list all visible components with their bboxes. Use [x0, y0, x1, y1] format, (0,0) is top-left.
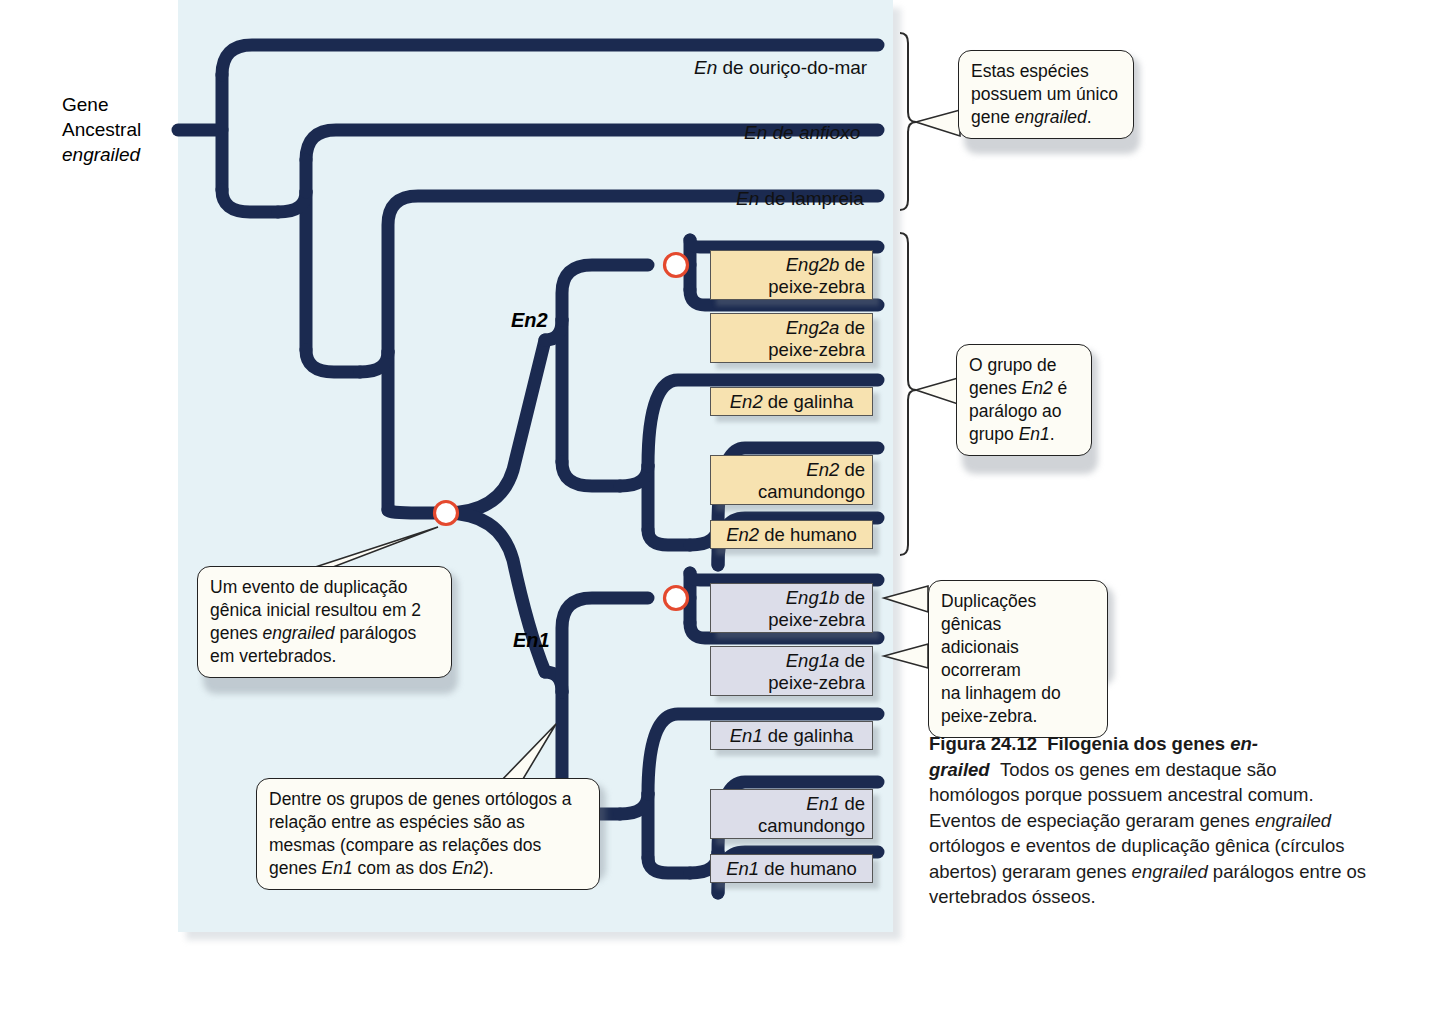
leader-ortholog-groups	[498, 724, 556, 784]
bracket-single-gene-species	[900, 33, 916, 210]
callout-paralog-group: O grupo de genes En2 é parálogo ao grupo…	[956, 344, 1092, 456]
callout-line: gênica inicial resultou em 2	[210, 599, 439, 622]
gene-box-line2: peixe-zebra	[718, 672, 865, 694]
callout-line: genes engrailed parálogos	[210, 622, 439, 645]
callout-line: na linhagem do	[941, 682, 1095, 705]
gene-box-line2: camundongo	[718, 815, 865, 837]
gene-box-en2-human: En2 de humano	[710, 520, 873, 549]
tip-label-lamprey: En de lampreia	[736, 188, 864, 210]
callout-extra-duplications: Duplicações gênicas adicionais ocorreram…	[928, 580, 1108, 738]
gene-box-line1: Eng2b de	[718, 254, 865, 276]
callout-line: possuem um único	[971, 83, 1121, 106]
tip-label-sea-urchin: En de ouriço-do-mar	[694, 57, 867, 79]
branch-to-nodeA	[222, 190, 278, 212]
branch-en2-fish-stem	[562, 265, 648, 320]
callout-line: parálogo ao	[969, 400, 1079, 423]
caption-title: Filogenia dos genes	[1047, 733, 1230, 754]
tip-prefix-lamprey: En	[736, 188, 759, 209]
callout-line: O grupo de	[969, 354, 1079, 377]
branch-eng2b	[690, 240, 878, 247]
callout-line: Dentre os grupos de genes ortólogos a	[269, 788, 587, 811]
callout-line: Estas espécies	[971, 60, 1121, 83]
callout-line: Duplicações gênicas	[941, 590, 1095, 636]
callout-line: genes En2 é	[969, 377, 1079, 400]
callout-line: genes En1 com as dos En2).	[269, 857, 587, 880]
gene-box-line1: En2 de humano	[718, 524, 865, 546]
callout-duplication-event: Um evento de duplicação gênica inicial r…	[197, 566, 452, 678]
callout-line: mesmas (compare as relações dos	[269, 834, 587, 857]
gene-box-en1-human: En1 de humano	[710, 854, 873, 883]
branch-en2-lineage	[446, 340, 545, 513]
gene-box-line1: Eng1a de	[718, 650, 865, 672]
gene-box-line1: En2 de galinha	[718, 391, 865, 413]
gene-box-line2: peixe-zebra	[718, 339, 865, 361]
node-label-en2: En2	[511, 309, 548, 332]
caption-body-ital-1: engrailed	[1255, 810, 1331, 831]
gene-box-en2-mouse: En2 de camundongo	[710, 455, 873, 505]
tip-rest-lamprey: de lampreia	[759, 188, 864, 209]
gene-box-eng1a-zebrafish: Eng1a de peixe-zebra	[710, 646, 873, 696]
gene-ancestral-line2: Ancestral	[62, 117, 141, 142]
duplication-node-zebrafish-en2-icon	[665, 254, 688, 277]
tip-rest-amphioxus: de anfioxo	[767, 122, 860, 143]
leader-single-gene	[916, 110, 960, 136]
branch-en2-mammal-stem	[648, 530, 690, 545]
gene-ancestral-label: Gene Ancestral engrailed	[62, 92, 141, 167]
duplication-node-zebrafish-en1-icon	[665, 587, 688, 610]
callout-line: gene engrailed.	[971, 106, 1121, 129]
gene-box-line1: Eng1b de	[718, 587, 865, 609]
branch-eng1b	[690, 573, 878, 580]
gene-box-line2: peixe-zebra	[718, 609, 865, 631]
callout-single-gene-species: Estas espécies possuem um único gene eng…	[958, 50, 1134, 139]
caption-figure-number: Figura 24.12	[929, 733, 1037, 754]
gene-box-line1: En1 de humano	[718, 858, 865, 880]
duplication-node-vertebrate-icon	[435, 502, 458, 525]
gene-box-line1: En1 de	[718, 793, 865, 815]
callout-ortholog-groups: Dentre os grupos de genes ortólogos a re…	[256, 778, 600, 890]
gene-box-eng2b-zebrafish: Eng2b de peixe-zebra	[710, 250, 873, 300]
leader-extra-dup-top	[884, 586, 928, 612]
leader-extra-dup-bottom	[884, 644, 928, 668]
gene-box-line1: En1 de galinha	[718, 725, 865, 747]
callout-line: adicionais ocorreram	[941, 636, 1095, 682]
gene-box-line2: peixe-zebra	[718, 276, 865, 298]
branch-en2-amniote-stem	[562, 462, 620, 486]
gene-ancestral-line3: engrailed	[62, 142, 141, 167]
branch-en1-fish-stem	[562, 598, 648, 692]
node-label-en1: En1	[513, 629, 550, 652]
gene-ancestral-line1: Gene	[62, 92, 141, 117]
callout-line: relação entre as espécies são as	[269, 811, 587, 834]
figure-caption: Figura 24.12 Filogenia dos genes en-grai…	[929, 731, 1369, 910]
bracket-en2-group	[900, 233, 916, 555]
tip-prefix-amphioxus: En	[744, 122, 767, 143]
callout-line: grupo En1.	[969, 423, 1079, 446]
gene-box-eng2a-zebrafish: Eng2a de peixe-zebra	[710, 313, 873, 363]
gene-box-en1-chicken: En1 de galinha	[710, 721, 873, 750]
tip-prefix-sea-urchin: En	[694, 57, 717, 78]
leader-en2-group	[916, 378, 958, 404]
tip-rest-sea-urchin: de ouriço-do-mar	[717, 57, 867, 78]
callout-line: peixe-zebra.	[941, 705, 1095, 728]
gene-box-eng1b-zebrafish: Eng1b de peixe-zebra	[710, 583, 873, 633]
gene-box-en1-mouse: En1 de camundongo	[710, 789, 873, 839]
gene-box-en2-chicken: En2 de galinha	[710, 387, 873, 416]
gene-box-line1: Eng2a de	[718, 317, 865, 339]
figure-root: Gene Ancestral engrailed En de ouriço-do…	[0, 0, 1433, 1022]
gene-box-line1: En2 de	[718, 459, 865, 481]
gene-box-line2: camundongo	[718, 481, 865, 503]
branch-to-nodeB	[306, 350, 360, 372]
callout-line: em vertebrados.	[210, 645, 439, 668]
caption-body-ital-2: engrailed	[1132, 861, 1208, 882]
branch-en1-mammal-stem	[648, 858, 690, 873]
tip-label-amphioxus: En de anfioxo	[744, 122, 860, 144]
callout-line: Um evento de duplicação	[210, 576, 439, 599]
